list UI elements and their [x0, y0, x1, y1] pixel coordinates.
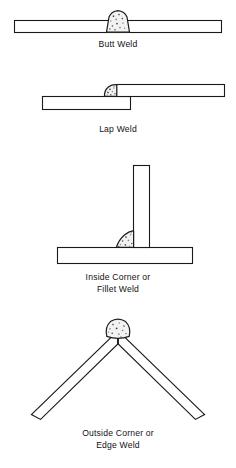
fillet-weld-vertical-plate [134, 166, 150, 248]
fillet-weld-horizontal-plate [58, 248, 193, 264]
butt-weld-group: Butt Weld [15, 11, 222, 49]
butt-weld-bead [107, 11, 130, 33]
fillet-weld-caption-line-1: Inside Corner or [86, 272, 151, 282]
edge-weld-caption-line-1: Outside Corner or [82, 428, 154, 438]
edge-weld-bead [106, 319, 130, 338]
fillet-weld-bead [116, 231, 133, 248]
edge-weld-caption-line-2: Edge Weld [96, 440, 140, 450]
lap-weld-lower-plate [43, 97, 131, 110]
lap-weld-caption: Lap Weld [99, 124, 137, 134]
butt-weld-caption: Butt Weld [99, 39, 138, 49]
lap-weld-group: Lap Weld [43, 85, 225, 135]
outside-corner-weld-group: Outside Corner or Edge Weld [31, 319, 204, 450]
lap-weld-bead [105, 85, 117, 97]
butt-weld-left-plate [15, 21, 119, 33]
butt-weld-right-plate [118, 21, 222, 33]
edge-weld-left-plate [31, 331, 117, 419]
weld-figure-svg: Butt Weld Lap Weld [0, 0, 236, 468]
weld-joint-diagram: Butt Weld Lap Weld [0, 0, 236, 468]
lap-weld-upper-plate [117, 85, 225, 97]
fillet-weld-caption-line-2: Fillet Weld [97, 284, 139, 294]
inside-corner-weld-group: Inside Corner or Fillet Weld [58, 166, 193, 295]
edge-weld-right-plate [118, 331, 204, 419]
